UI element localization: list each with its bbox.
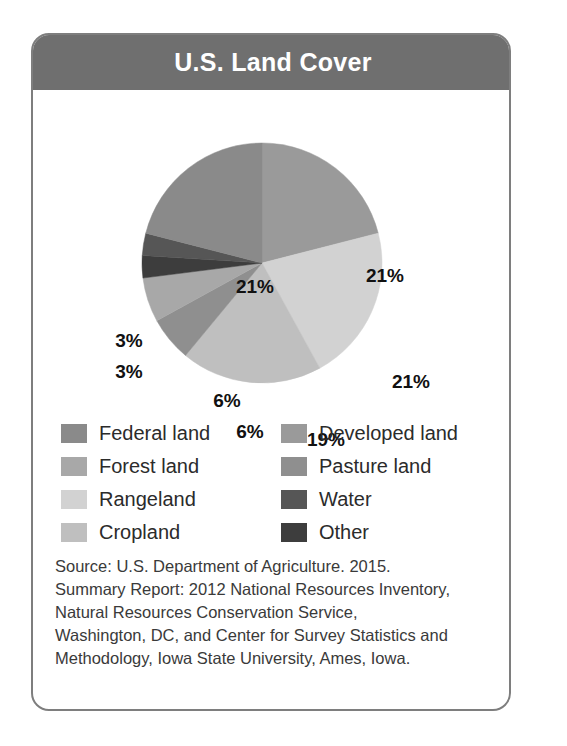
legend-label: Cropland: [99, 521, 180, 544]
source-line: Natural Resources Conservation Service,: [55, 601, 499, 624]
legend-item: Water: [281, 483, 491, 516]
legend-label: Other: [319, 521, 369, 544]
legend-swatch: [281, 490, 307, 509]
legend-swatch: [61, 457, 87, 476]
legend-item: Other: [281, 516, 491, 549]
legend-item: Rangeland: [61, 483, 271, 516]
pie-slice-label: 3%: [115, 330, 142, 352]
legend-item: Pasture land: [281, 450, 491, 483]
legend-label: Rangeland: [99, 488, 196, 511]
legend-swatch: [61, 424, 87, 443]
source-line: Source: U.S. Department of Agriculture. …: [55, 555, 499, 578]
legend-swatch: [61, 523, 87, 542]
legend-item: Federal land: [61, 417, 271, 450]
legend-swatch: [281, 457, 307, 476]
chart-card: U.S. Land Cover 21%21%19%6%6%3%3%21% Fed…: [31, 33, 511, 711]
card-header: U.S. Land Cover: [32, 34, 511, 90]
legend-label: Water: [319, 488, 372, 511]
source-line: Methodology, Iowa State University, Ames…: [55, 647, 499, 670]
pie-slice-label: 21%: [366, 265, 404, 287]
pie-chart: 21%21%19%6%6%3%3%21%: [33, 91, 511, 421]
legend-label: Federal land: [99, 422, 210, 445]
legend-item: Developed land: [281, 417, 491, 450]
legend-label: Pasture land: [319, 455, 431, 478]
legend-item: Forest land: [61, 450, 271, 483]
source-line: Washington, DC, and Center for Survey St…: [55, 624, 499, 647]
chart-legend: Federal landDeveloped landForest landPas…: [61, 417, 491, 549]
legend-swatch: [281, 523, 307, 542]
legend-swatch: [61, 490, 87, 509]
page-title: U.S. Land Cover: [174, 48, 372, 77]
legend-label: Developed land: [319, 422, 458, 445]
legend-swatch: [281, 424, 307, 443]
source-line: Summary Report: 2012 National Resources …: [55, 578, 499, 601]
pie-chart-graphic: [33, 91, 511, 421]
pie-slice-label: 21%: [392, 371, 430, 393]
pie-slice-label: 6%: [213, 390, 240, 412]
pie-slice-label: 21%: [236, 276, 274, 298]
legend-label: Forest land: [99, 455, 199, 478]
pie-svg: [33, 91, 511, 421]
legend-item: Cropland: [61, 516, 271, 549]
pie-slice-label: 3%: [115, 361, 142, 383]
source-note: Source: U.S. Department of Agriculture. …: [55, 555, 499, 670]
